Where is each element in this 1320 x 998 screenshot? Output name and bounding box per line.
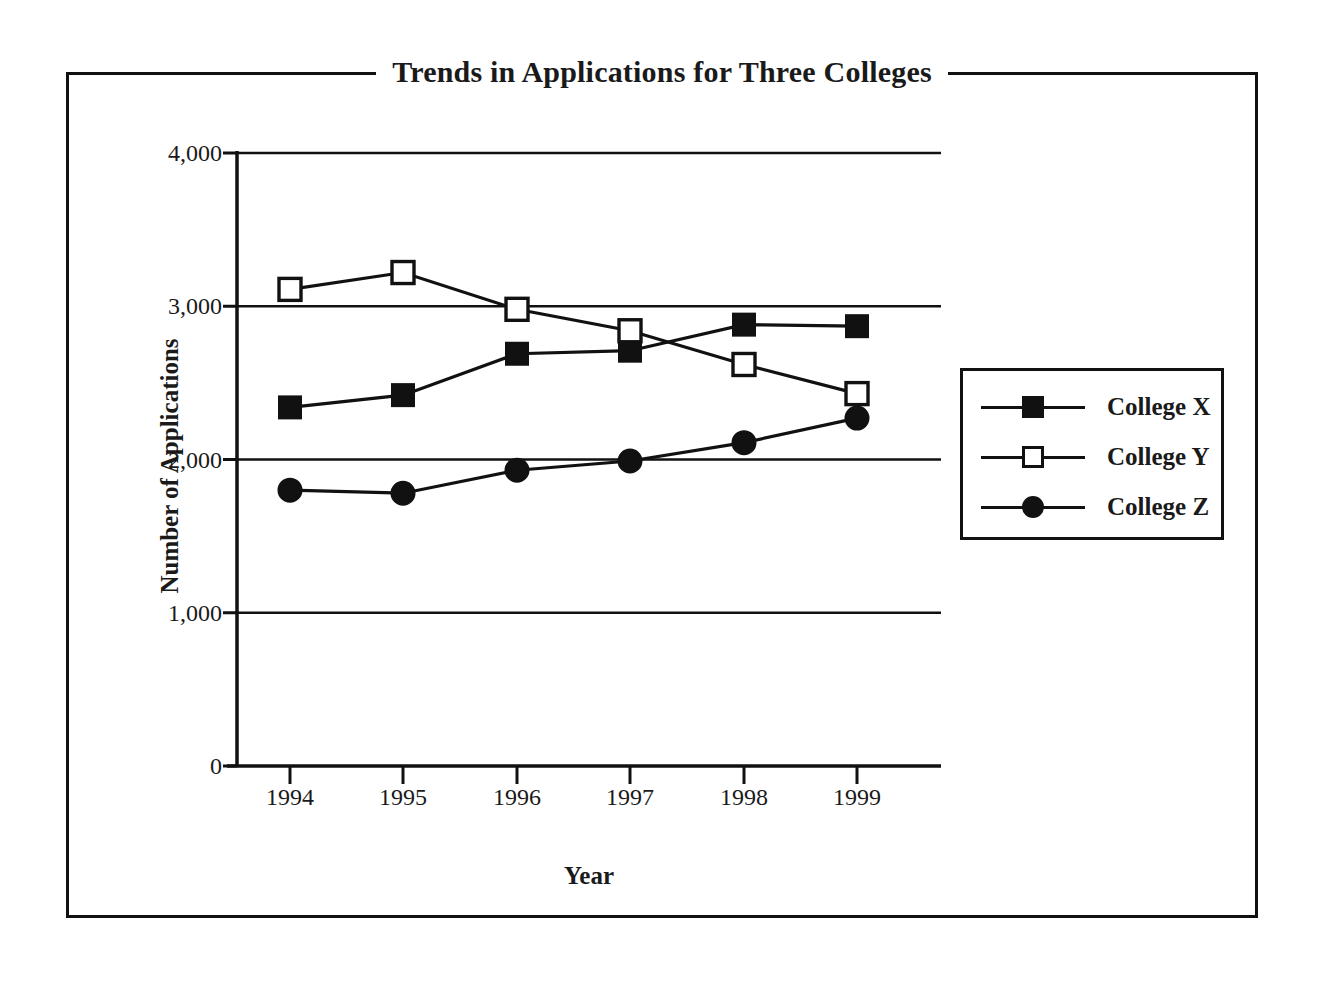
x-tick-1996: 1996 xyxy=(462,784,572,811)
legend-sample-college-z xyxy=(977,492,1089,522)
data-point-filled-circle-icon xyxy=(846,407,869,430)
data-point-open-square-icon xyxy=(846,383,868,405)
data-point-filled-circle-icon xyxy=(506,459,529,482)
data-point-open-square-icon xyxy=(619,320,641,342)
y-tick-1000: 1,000 xyxy=(72,599,222,626)
data-point-filled-circle-icon xyxy=(619,450,642,473)
data-point-filled-square-icon xyxy=(279,396,301,418)
data-point-filled-circle-icon xyxy=(279,479,302,502)
y-tick-0: 0 xyxy=(72,753,222,780)
x-tick-1997: 1997 xyxy=(575,784,685,811)
data-point-open-square-icon xyxy=(392,262,414,284)
legend-label-college-z: College Z xyxy=(1107,493,1209,521)
y-axis-tick-labels: 4,000 3,000 2,000 1,000 0 xyxy=(70,153,222,766)
data-point-filled-circle-icon xyxy=(392,482,415,505)
legend-item-college-y: College Y xyxy=(963,433,1221,481)
data-point-filled-square-icon xyxy=(392,384,414,406)
data-point-filled-square-icon xyxy=(733,314,755,336)
legend-item-college-x: College X xyxy=(963,383,1221,431)
data-point-filled-square-icon xyxy=(846,315,868,337)
y-tick-4000: 4,000 xyxy=(72,140,222,167)
series-line xyxy=(290,273,857,394)
series-line xyxy=(290,418,857,493)
data-point-open-square-icon xyxy=(506,298,528,320)
data-point-filled-circle-icon xyxy=(733,431,756,454)
filled-circle-marker-icon xyxy=(1022,496,1044,518)
x-tick-1999: 1999 xyxy=(802,784,912,811)
data-point-open-square-icon xyxy=(279,278,301,300)
x-tick-1998: 1998 xyxy=(689,784,799,811)
chart-figure: Trends in Applications for Three College… xyxy=(0,0,1320,998)
plot-area xyxy=(237,153,941,766)
series-college-y xyxy=(279,262,868,405)
legend-item-college-z: College Z xyxy=(963,483,1221,531)
gridlines xyxy=(237,153,941,613)
series-line xyxy=(290,325,857,408)
series-college-z xyxy=(279,407,869,505)
filled-square-marker-icon xyxy=(1022,396,1044,418)
data-point-open-square-icon xyxy=(733,353,755,375)
chart-legend: College X College Y College Z xyxy=(960,368,1224,540)
legend-label-college-y: College Y xyxy=(1107,443,1210,471)
legend-sample-college-x xyxy=(977,392,1089,422)
open-square-marker-icon xyxy=(1022,446,1044,468)
legend-label-college-x: College X xyxy=(1107,393,1210,421)
legend-sample-college-y xyxy=(977,442,1089,472)
x-axis-title: Year xyxy=(237,862,941,890)
x-tick-1995: 1995 xyxy=(348,784,458,811)
y-tick-3000: 3,000 xyxy=(72,293,222,320)
y-axis-title: Number of Applications xyxy=(156,226,184,706)
series-layer xyxy=(279,262,869,505)
series-college-x xyxy=(279,314,868,419)
data-point-filled-square-icon xyxy=(506,343,528,365)
plot-svg xyxy=(237,153,941,766)
x-tick-1994: 1994 xyxy=(235,784,345,811)
x-axis-tick-labels: 1994 1995 1996 1997 1998 1999 xyxy=(237,784,941,824)
y-tick-2000: 2,000 xyxy=(72,446,222,473)
